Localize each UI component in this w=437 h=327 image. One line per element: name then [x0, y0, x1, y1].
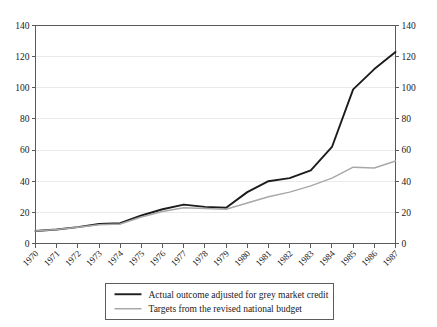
x-tick-label: 1980 [232, 248, 252, 268]
y-tick-label-left: 20 [20, 208, 30, 218]
x-tick-label: 1986 [359, 248, 379, 268]
x-tick-label: 1973 [84, 248, 104, 268]
y-tick-label-right: 80 [402, 114, 412, 124]
x-tick-label: 1979 [211, 248, 231, 268]
legend-label: Targets from the revised national budget [149, 304, 303, 314]
data-series [36, 52, 396, 231]
x-tick-label: 1974 [105, 248, 125, 268]
gridlines [36, 57, 396, 213]
y-tick-label-left: 100 [15, 83, 30, 93]
y-tick-label-right: 60 [402, 145, 412, 155]
x-tick-label: 1970 [21, 248, 41, 268]
y-tick-label-left: 120 [15, 52, 30, 62]
x-tick-label: 1975 [126, 248, 146, 268]
x-tick-label: 1971 [42, 248, 62, 268]
x-tick-label: 1985 [338, 248, 358, 268]
x-tick-label: 1983 [296, 248, 316, 268]
chart-axes [36, 26, 396, 244]
y-tick-label-left: 60 [20, 145, 30, 155]
x-tick-label: 1981 [254, 248, 274, 268]
x-tick-label: 1987 [381, 248, 401, 268]
y-tick-label-left: 0 [25, 239, 30, 249]
x-tick-label: 1982 [275, 248, 295, 268]
line-chart: 020406080100120140 020406080100120140 19… [0, 0, 437, 327]
y-tick-label-right: 20 [402, 208, 412, 218]
y-tick-label-right: 100 [402, 83, 417, 93]
chart-legend: Actual outcome adjusted for grey market … [106, 284, 334, 320]
y-tick-label-left: 140 [15, 21, 30, 31]
y-axis-left-ticks: 020406080100120140 [15, 21, 35, 249]
y-tick-label-right: 120 [402, 52, 417, 62]
x-tick-label: 1976 [148, 248, 168, 268]
x-tick-label: 1978 [190, 248, 210, 268]
series-line [36, 52, 396, 231]
y-axis-right-ticks: 020406080100120140 [396, 21, 417, 249]
y-tick-label-right: 40 [402, 177, 412, 187]
x-axis-ticks: 1970197119721973197419751976197719781979… [21, 244, 401, 269]
y-tick-label-left: 80 [20, 114, 30, 124]
legend-label: Actual outcome adjusted for grey market … [149, 290, 329, 300]
y-tick-label-left: 40 [20, 177, 30, 187]
x-tick-label: 1984 [317, 248, 337, 268]
y-tick-label-right: 140 [402, 21, 417, 31]
chart-canvas: 020406080100120140 020406080100120140 19… [0, 0, 437, 327]
series-line [36, 161, 396, 231]
x-tick-label: 1977 [169, 248, 189, 268]
x-tick-label: 1972 [63, 248, 83, 268]
y-tick-label-right: 0 [402, 239, 407, 249]
